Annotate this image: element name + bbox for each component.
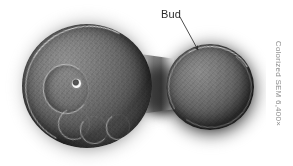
bud-cell <box>166 44 254 130</box>
bud-leader-line-arrow <box>178 12 208 56</box>
figure-container: Bud Colorized SEM 6,400× <box>0 0 293 166</box>
micrograph-image <box>0 0 266 166</box>
birth-scar-dot <box>72 79 81 88</box>
credit-container: Colorized SEM 6,400× <box>266 0 292 166</box>
mother-cell <box>22 24 152 148</box>
credit-text: Colorized SEM 6,400× <box>275 40 284 125</box>
